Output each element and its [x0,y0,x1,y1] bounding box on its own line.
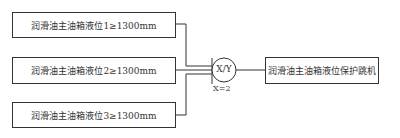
input-label-1: 润滑油主油箱液位1≥1300mm [31,19,156,32]
input-label-3: 润滑油主油箱液位3≥1300mm [31,109,156,122]
output-label: 润滑油主油箱液位保护跳机 [268,64,376,77]
gate-condition: X=2 [213,84,231,93]
output-box-trip: 润滑油主油箱液位保护跳机 [265,57,379,84]
input-box-level-3: 润滑油主油箱液位3≥1300mm [12,102,176,128]
gate-label: X/Y [212,64,236,74]
input-box-level-1: 润滑油主油箱液位1≥1300mm [12,12,176,38]
input-label-2: 润滑油主油箱液位2≥1300mm [31,64,156,77]
input-box-level-2: 润滑油主油箱液位2≥1300mm [12,57,176,84]
